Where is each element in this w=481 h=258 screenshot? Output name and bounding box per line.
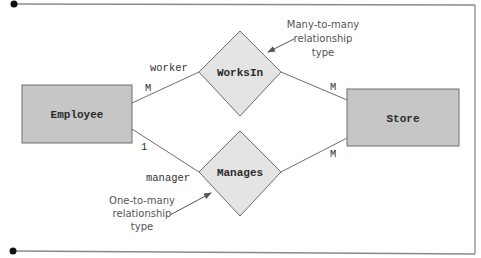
cardinality-worksin-store: M: [330, 81, 336, 93]
annotation-one-to-many: One-to-many relationship type: [109, 193, 211, 232]
relationship-manages[interactable]: Manages: [199, 131, 281, 216]
annotation-many-to-many-line2: relationship: [294, 33, 353, 44]
role-label-manager: manager: [146, 172, 190, 184]
frame-top-line: [14, 4, 475, 5]
frame-bottom-line: [13, 251, 475, 254]
entity-employee-label: Employee: [51, 109, 104, 121]
cardinality-manages-store: M: [330, 148, 336, 160]
entity-store[interactable]: Store: [347, 89, 459, 146]
arrow-one-to-many-icon: [170, 193, 211, 215]
cardinality-employee-worksin: M: [145, 82, 151, 94]
annotation-one-to-many-line3: type: [131, 221, 153, 232]
edge-employee-worksin: [132, 72, 199, 103]
annotation-one-to-many-line1: One-to-many: [109, 195, 175, 206]
frame-top-dot: [11, 1, 18, 8]
role-label-worker: worker: [150, 62, 188, 74]
relationship-worksin[interactable]: WorksIn: [199, 31, 281, 116]
entity-store-label: Store: [386, 113, 419, 125]
annotation-many-to-many-line3: type: [312, 47, 334, 58]
er-diagram-canvas: Employee Store WorksIn Manages worker M …: [0, 0, 481, 258]
cardinality-employee-manages: 1: [141, 141, 147, 153]
annotation-one-to-many-line2: relationship: [113, 208, 172, 219]
edge-worksin-store: [281, 72, 347, 100]
entity-employee[interactable]: Employee: [22, 85, 132, 143]
arrow-many-to-many-icon: [268, 39, 294, 52]
edge-manages-store: [281, 138, 347, 172]
annotation-many-to-many-line1: Many-to-many: [287, 19, 359, 30]
relationship-worksin-label: WorksIn: [217, 67, 263, 79]
relationship-manages-label: Manages: [217, 167, 263, 179]
annotation-many-to-many: Many-to-many relationship type: [268, 19, 359, 58]
frame-bottom-dot: [10, 248, 17, 255]
